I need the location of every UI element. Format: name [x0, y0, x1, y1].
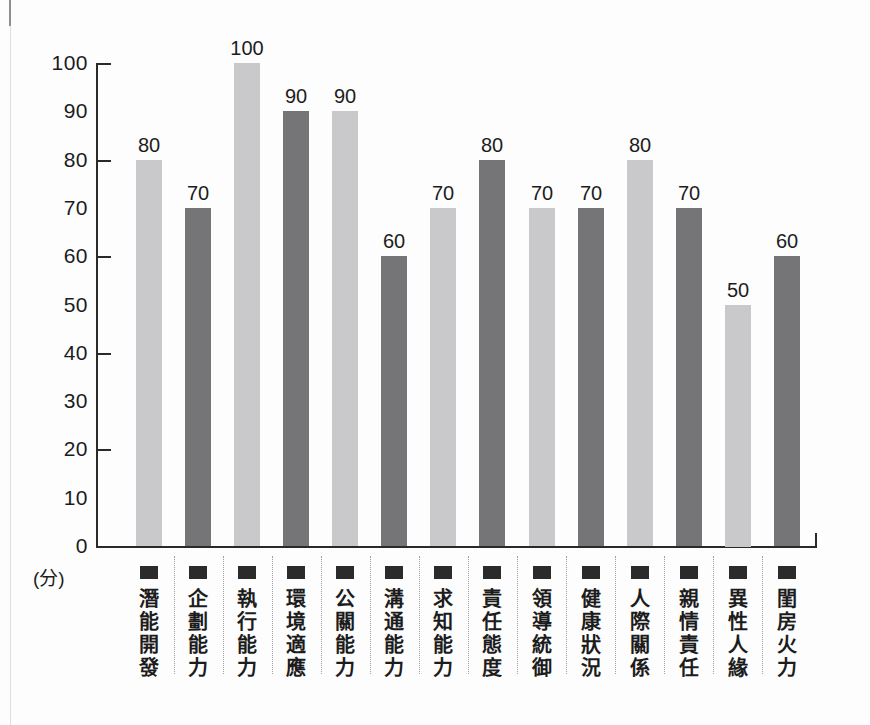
bar-溝通能力: [381, 256, 407, 546]
category-label-10: 健康狀況: [578, 588, 604, 708]
bar-企劃能力: [185, 208, 211, 546]
bar-chart: (分) 010203040506070809010080潛能開發70企劃能力10…: [0, 0, 870, 725]
category-label-12: 親情責任: [676, 588, 702, 708]
category-separator: [370, 556, 371, 674]
y-axis-label-0: 0: [22, 535, 88, 557]
category-chip: [385, 566, 403, 579]
category-label-11: 人際關係: [627, 588, 653, 708]
category-label-5: 公關能力: [332, 588, 358, 708]
category-separator: [272, 556, 273, 674]
y-axis-label-60: 60: [22, 245, 88, 267]
y-axis-label-90: 90: [22, 100, 88, 122]
category-chip: [729, 566, 747, 579]
category-label-4: 環境適應: [283, 588, 309, 708]
category-chip: [189, 566, 207, 579]
category-separator: [713, 556, 714, 674]
bar-潛能開發: [136, 160, 162, 546]
bar-value-label: 80: [460, 134, 524, 156]
bar-value-label: 70: [411, 182, 475, 204]
category-chip: [778, 566, 796, 579]
category-label-1: 潛能開發: [136, 588, 162, 708]
bar-value-label: 70: [657, 182, 721, 204]
bar-健康狀況: [578, 208, 604, 546]
x-axis-end-tick: [815, 533, 817, 548]
category-chip: [582, 566, 600, 579]
x-axis-line: [96, 546, 817, 548]
category-separator: [223, 556, 224, 674]
y-axis-label-30: 30: [22, 390, 88, 412]
category-chip: [680, 566, 698, 579]
bar-領導統御: [529, 208, 555, 546]
category-label-3: 執行能力: [234, 588, 260, 708]
bar-value-label: 100: [215, 37, 279, 59]
category-label-2: 企劃能力: [185, 588, 211, 708]
y-axis-label-40: 40: [22, 342, 88, 364]
y-axis-unit-label: (分): [33, 563, 65, 590]
bar-異性人緣: [725, 305, 751, 547]
category-label-8: 責任態度: [479, 588, 505, 708]
bar-環境適應: [283, 111, 309, 546]
category-chip: [483, 566, 501, 579]
category-chip: [533, 566, 551, 579]
y-axis-label-70: 70: [22, 197, 88, 219]
category-separator: [419, 556, 420, 674]
y-axis-tick-100: [96, 63, 111, 65]
category-separator: [468, 556, 469, 674]
bar-value-label: 90: [313, 85, 377, 107]
y-axis-tick-60: [96, 256, 111, 258]
category-chip: [238, 566, 256, 579]
scanned-page: (分) 010203040506070809010080潛能開發70企劃能力10…: [0, 0, 870, 725]
category-label-9: 領導統御: [529, 588, 555, 708]
category-separator: [517, 556, 518, 674]
category-separator: [615, 556, 616, 674]
bar-value-label: 60: [755, 230, 819, 252]
y-axis-label-50: 50: [22, 294, 88, 316]
category-separator: [664, 556, 665, 674]
bar-責任態度: [479, 160, 505, 546]
y-axis-label-80: 80: [22, 149, 88, 171]
category-label-13: 異性人緣: [725, 588, 751, 708]
y-axis-label-10: 10: [22, 487, 88, 509]
category-label-6: 溝通能力: [381, 588, 407, 708]
category-separator: [174, 556, 175, 674]
category-label-14: 閨房火力: [774, 588, 800, 708]
y-axis-label-100: 100: [22, 52, 88, 74]
bar-value-label: 80: [117, 134, 181, 156]
bar-閨房火力: [774, 256, 800, 546]
bar-執行能力: [234, 63, 260, 546]
category-chip: [336, 566, 354, 579]
y-axis-tick-80: [96, 160, 111, 162]
bar-value-label: 60: [362, 230, 426, 252]
bar-公關能力: [332, 111, 358, 546]
category-chip: [287, 566, 305, 579]
category-separator: [566, 556, 567, 674]
y-axis-tick-40: [96, 353, 111, 355]
y-axis-label-20: 20: [22, 438, 88, 460]
bar-value-label: 70: [166, 182, 230, 204]
bar-value-label: 50: [706, 279, 770, 301]
bar-人際關係: [627, 160, 653, 546]
category-chip: [140, 566, 158, 579]
category-label-7: 求知能力: [430, 588, 456, 708]
bar-value-label: 80: [608, 134, 672, 156]
bar-求知能力: [430, 208, 456, 546]
y-axis-line: [96, 63, 98, 548]
category-separator: [321, 556, 322, 674]
category-separator: [762, 556, 763, 674]
bar-value-label: 70: [559, 182, 623, 204]
bar-親情責任: [676, 208, 702, 546]
category-chip: [434, 566, 452, 579]
category-chip: [631, 566, 649, 579]
y-axis-tick-20: [96, 449, 111, 451]
